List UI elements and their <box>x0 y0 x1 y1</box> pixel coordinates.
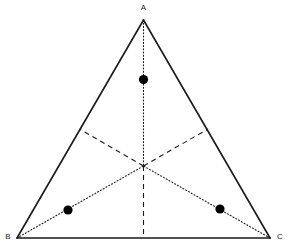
vertex-label-c: C <box>277 232 283 241</box>
triangle-diagram-svg: A B C <box>0 0 292 252</box>
vertex-labels: A B C <box>5 3 283 241</box>
point-left-dot <box>63 205 72 214</box>
point-top-dot <box>139 75 148 84</box>
geometry-figure: A B C <box>0 0 292 252</box>
median-centroid-to-ac-midpoint-line <box>144 129 209 166</box>
point-right-dot <box>215 204 224 213</box>
median-b-to-centroid-line <box>17 166 144 238</box>
edge-ac-line <box>144 20 271 238</box>
vertex-label-b: B <box>5 232 10 241</box>
median-c-to-centroid-line <box>144 166 271 238</box>
vertex-label-a: A <box>141 3 147 12</box>
median-centroid-to-ab-midpoint-line <box>80 129 144 166</box>
